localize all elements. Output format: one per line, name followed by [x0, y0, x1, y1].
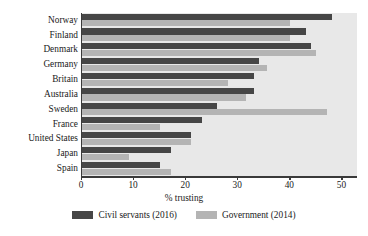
legend-item: Civil servants (2016)	[72, 210, 177, 220]
chart-legend: Civil servants (2016)Government (2014)	[0, 210, 368, 220]
x-tick-label: 0	[66, 180, 96, 190]
legend-swatch	[196, 211, 217, 219]
x-tick-label: 50	[326, 180, 356, 190]
bar-row	[82, 161, 357, 176]
bar-civil-servants	[82, 28, 306, 34]
bar-row	[82, 57, 357, 72]
bar-row	[82, 146, 357, 161]
bar-government	[82, 94, 246, 100]
bar-government	[82, 35, 290, 41]
bar-civil-servants	[82, 43, 311, 49]
bar-row	[82, 43, 357, 58]
bar-government	[82, 169, 171, 175]
y-axis-label: Spain	[0, 163, 78, 173]
bar-government	[82, 65, 267, 71]
y-axis-label: United States	[0, 133, 78, 143]
bar-civil-servants	[82, 14, 332, 20]
bar-civil-servants	[82, 58, 259, 64]
bar-row	[82, 72, 357, 87]
bar-row	[82, 102, 357, 117]
x-tick-label: 30	[222, 180, 252, 190]
x-axis-ticks: 01020304050	[0, 176, 368, 192]
bar-row	[82, 132, 357, 147]
x-axis-title: % trusting	[0, 193, 368, 203]
x-tick-label: 10	[118, 180, 148, 190]
bar-civil-servants	[82, 132, 191, 138]
bar-civil-servants	[82, 117, 202, 123]
y-axis-label: France	[0, 119, 78, 129]
bar-civil-servants	[82, 103, 217, 109]
bar-civil-servants	[82, 73, 254, 79]
y-axis-label: Australia	[0, 89, 78, 99]
y-axis-labels: NorwayFinlandDenmarkGermanyBritainAustra…	[0, 13, 78, 176]
y-axis-label: Britain	[0, 74, 78, 84]
plot-area	[81, 13, 357, 176]
bar-government	[82, 154, 129, 160]
legend-item: Government (2014)	[196, 210, 296, 220]
bar-government	[82, 80, 228, 86]
y-axis-label: Sweden	[0, 104, 78, 114]
legend-label: Civil servants (2016)	[98, 210, 177, 220]
legend-label: Government (2014)	[222, 210, 296, 220]
bar-government	[82, 20, 290, 26]
legend-swatch	[72, 211, 93, 219]
y-axis-label: Germany	[0, 59, 78, 69]
bar-row	[82, 87, 357, 102]
y-axis-label: Finland	[0, 30, 78, 40]
bar-government	[82, 109, 327, 115]
y-axis-label: Denmark	[0, 44, 78, 54]
bar-row	[82, 117, 357, 132]
bar-row	[82, 28, 357, 43]
bar-civil-servants	[82, 88, 254, 94]
x-tick-label: 40	[274, 180, 304, 190]
bar-government	[82, 139, 191, 145]
chart-figure: NorwayFinlandDenmarkGermanyBritainAustra…	[0, 0, 368, 236]
bar-government	[82, 50, 316, 56]
bar-government	[82, 124, 160, 130]
bar-civil-servants	[82, 147, 171, 153]
x-tick-label: 20	[170, 180, 200, 190]
y-axis-label: Japan	[0, 148, 78, 158]
bar-row	[82, 13, 357, 28]
bar-civil-servants	[82, 162, 160, 168]
y-axis-label: Norway	[0, 15, 78, 25]
